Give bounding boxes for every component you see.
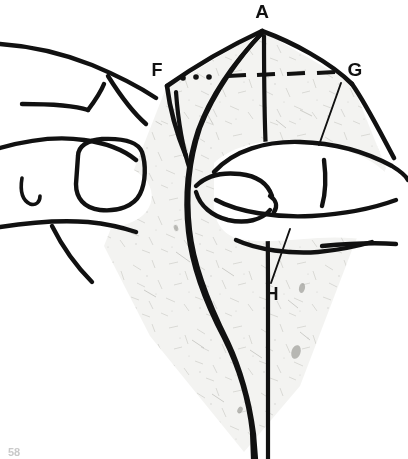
label-f: F (152, 60, 163, 80)
fold-guide-dash (228, 75, 246, 76)
left-pinky-diagonal (52, 226, 92, 282)
label-h: H (266, 284, 279, 304)
origami-illustration: A F G H 58 (0, 0, 408, 459)
page-number-text: 58 (8, 446, 20, 458)
fold-guide-dash (317, 72, 335, 73)
label-a: A (255, 1, 269, 22)
alignment-dot (206, 74, 212, 80)
fold-guide-dash (287, 73, 305, 74)
figure-root: A F G H 58 (0, 0, 408, 459)
alignment-dot (180, 75, 186, 81)
fold-guide-dash (257, 74, 275, 75)
label-g: G (348, 59, 363, 80)
right-lower-finger-2 (322, 243, 396, 246)
alignment-dot (193, 74, 199, 80)
page-number: 58 (8, 446, 20, 458)
